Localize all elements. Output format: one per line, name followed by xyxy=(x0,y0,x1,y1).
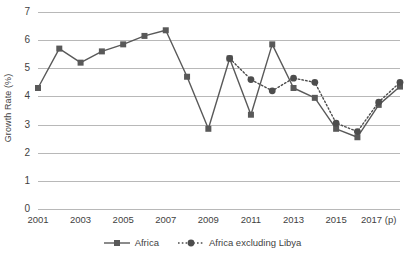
legend-square-marker-icon xyxy=(103,238,131,248)
x-tick-label-2015: 2015 xyxy=(326,214,347,225)
data-point-marker xyxy=(311,79,318,86)
data-point-marker xyxy=(333,126,339,132)
y-tick-label-4: 4 xyxy=(10,91,30,101)
plot-area xyxy=(38,12,400,209)
x-tick-label-2011: 2011 xyxy=(241,214,261,225)
data-point-marker xyxy=(248,112,254,118)
data-point-marker xyxy=(99,48,105,54)
chart-legend: AfricaAfrica excluding Libya xyxy=(0,237,404,248)
x-tick-label-2003: 2003 xyxy=(70,214,91,225)
data-point-marker xyxy=(184,74,190,80)
y-tick-label-3: 3 xyxy=(10,120,30,130)
x-tick-label-2007: 2007 xyxy=(155,214,176,225)
data-point-marker xyxy=(290,75,297,82)
y-tick-label-7: 7 xyxy=(10,7,30,17)
data-point-marker xyxy=(141,33,147,39)
series-1 xyxy=(35,27,403,140)
growth-rate-line-chart: Growth Rate (%) 01234567 200120032005200… xyxy=(0,0,404,259)
data-point-marker xyxy=(35,85,41,91)
y-tick-label-5: 5 xyxy=(10,63,30,73)
data-point-marker xyxy=(312,95,318,101)
legend-circle-marker-icon xyxy=(177,238,205,248)
y-tick-label-0: 0 xyxy=(10,204,30,214)
data-point-marker xyxy=(269,87,276,94)
data-point-marker xyxy=(205,126,211,132)
data-point-marker xyxy=(248,76,255,83)
data-point-marker xyxy=(397,79,404,86)
series-canvas xyxy=(38,12,400,209)
series-line-1 xyxy=(38,30,400,137)
data-point-marker xyxy=(354,128,361,135)
data-point-marker xyxy=(120,41,126,47)
data-point-marker xyxy=(226,55,233,62)
x-tick-label-2017: 2017 (p) xyxy=(361,214,396,225)
x-tick-label-2013: 2013 xyxy=(283,214,304,225)
data-point-marker xyxy=(56,46,62,52)
x-tick-label-2005: 2005 xyxy=(113,214,134,225)
data-point-marker xyxy=(375,99,382,106)
x-tick-label-2009: 2009 xyxy=(198,214,219,225)
data-point-marker xyxy=(333,120,340,127)
gridline-0 xyxy=(38,209,400,210)
data-point-marker xyxy=(291,85,297,91)
data-point-marker xyxy=(163,27,169,33)
y-tick-label-6: 6 xyxy=(10,35,30,45)
legend-entry-1[interactable]: Africa xyxy=(103,237,159,248)
x-tick-label-2001: 2001 xyxy=(27,214,48,225)
legend-entry-2[interactable]: Africa excluding Libya xyxy=(177,237,301,248)
y-axis-title-label: Growth Rate (%) xyxy=(3,73,13,142)
y-tick-label-1: 1 xyxy=(10,176,30,186)
data-point-marker xyxy=(269,41,275,47)
data-point-marker xyxy=(354,134,360,140)
legend-label: Africa excluding Libya xyxy=(209,237,301,248)
data-point-marker xyxy=(78,60,84,66)
y-tick-label-2: 2 xyxy=(10,148,30,158)
legend-label: Africa xyxy=(135,237,159,248)
